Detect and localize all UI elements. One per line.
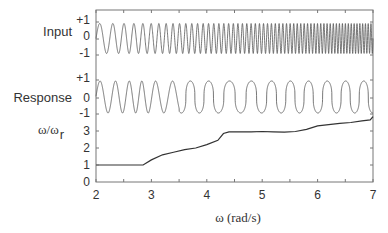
ratio-label-sub: r (60, 127, 65, 142)
ratio-label-main: ω/ω (38, 122, 59, 137)
x-axis-label: ω (rad/s) (215, 210, 261, 225)
ratio-tick-0: 0 (83, 175, 90, 189)
response-tick-plus1: +1 (76, 71, 90, 85)
input-series (96, 24, 373, 54)
x-tick-label: 5 (259, 188, 266, 202)
x-tick-label: 2 (93, 188, 100, 202)
response-tick-0: 0 (83, 91, 90, 105)
x-tick-label: 7 (370, 188, 377, 202)
chart: Input +1 0 -1 Response +1 0 -1 ω/ωr 3 2 … (0, 0, 388, 233)
x-tick-labels: 234567 (93, 188, 377, 202)
ratio-tick-2: 2 (83, 141, 90, 155)
x-tick-label: 6 (314, 188, 321, 202)
ratio-tick-1: 1 (83, 158, 90, 172)
input-tick-plus1: +1 (76, 13, 90, 27)
response-series (96, 81, 373, 113)
ratio-tick-3: 3 (83, 124, 90, 138)
x-tick-label: 3 (148, 188, 155, 202)
response-tick-minus1: -1 (79, 106, 90, 120)
ratio-label: ω/ωr (38, 122, 65, 142)
input-label: Input (43, 24, 72, 39)
ratio-series (96, 117, 373, 165)
response-label: Response (13, 90, 72, 105)
input-tick-0: 0 (83, 29, 90, 43)
input-tick-minus1: -1 (79, 46, 90, 60)
x-tick-label: 4 (203, 188, 210, 202)
